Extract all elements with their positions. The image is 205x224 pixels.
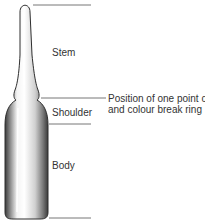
label-body: Body — [52, 160, 75, 171]
callout-line-1: Position of one point cut — [108, 93, 205, 104]
ampoule-shape — [5, 5, 48, 219]
label-shoulder: Shoulder — [52, 107, 92, 118]
callout-line-2: and colour break ring — [108, 104, 205, 115]
callout-text: Position of one point cut and colour bre… — [108, 93, 205, 115]
label-stem: Stem — [52, 47, 75, 58]
